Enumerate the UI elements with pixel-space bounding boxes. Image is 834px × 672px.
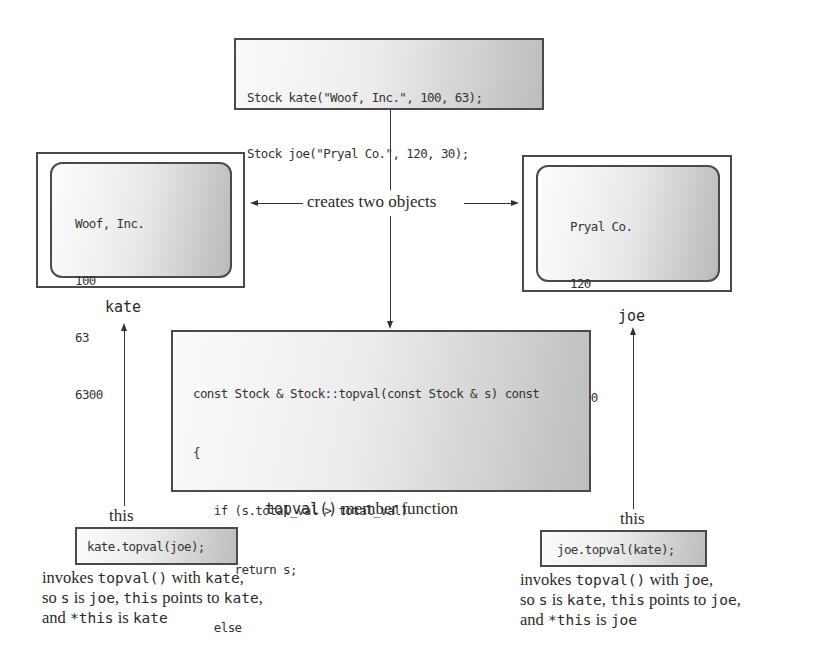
kate-object-frame: Woof, Inc. 100 63 6300 <box>36 152 245 288</box>
joe-field: Pryal Co. <box>570 217 632 236</box>
arrow-left-icon <box>250 200 258 206</box>
arrow-right-icon <box>511 200 519 206</box>
connector-line-left <box>258 203 303 204</box>
joe-field: 120 <box>570 274 632 293</box>
joe-call-caption: invokes topval() with joe, so s is kate,… <box>520 570 741 630</box>
kate-call-code: kate.topval(joe); <box>87 539 205 554</box>
joe-object-box: Pryal Co. 120 30 3600 <box>536 165 720 282</box>
kate-label: kate <box>105 298 141 316</box>
joe-label: joe <box>618 307 645 325</box>
kate-field: 100 <box>75 271 144 290</box>
caption-line-1: invokes topval() with joe, <box>520 570 741 590</box>
connector-line <box>390 216 391 322</box>
kate-call-box: kate.topval(joe); <box>75 527 238 565</box>
caption-text: member function <box>337 499 458 518</box>
member-function-caption: topval() member function <box>265 499 458 519</box>
this-pointer-line-right <box>633 334 634 509</box>
declaration-line: Stock joe("Pryal Co.", 120, 30); <box>247 145 482 164</box>
caption-line-3: and *this is kate <box>42 608 263 628</box>
code-line: { <box>193 443 539 463</box>
this-label-right: this <box>620 509 645 529</box>
connector-line-right <box>464 203 512 204</box>
creates-objects-label: creates two objects <box>307 192 436 212</box>
kate-field: 63 <box>75 328 144 347</box>
this-pointer-line-left <box>124 330 125 506</box>
declaration-box: Stock kate("Woof, Inc.", 100, 63); Stock… <box>234 38 544 110</box>
arrow-up-icon <box>121 323 127 331</box>
arrow-down-icon <box>387 321 393 329</box>
joe-call-code: joe.topval(kate); <box>557 542 675 557</box>
caption-line-2: so s is kate, this points to joe, <box>520 590 741 610</box>
caption-code: topval() <box>265 500 337 518</box>
caption-line-2: so s is joe, this points to kate, <box>42 588 263 608</box>
kate-call-caption: invokes topval() with kate, so s is joe,… <box>42 568 263 628</box>
member-function-box: const Stock & Stock::topval(const Stock … <box>171 330 591 492</box>
this-label-left: this <box>109 506 134 526</box>
kate-field: Woof, Inc. <box>75 214 144 233</box>
kate-object-box: Woof, Inc. 100 63 6300 <box>50 162 232 278</box>
caption-line-1: invokes topval() with kate, <box>42 568 263 588</box>
joe-call-box: joe.topval(kate); <box>540 530 707 567</box>
arrow-up-icon <box>630 327 636 335</box>
code-line: const Stock & Stock::topval(const Stock … <box>193 384 539 404</box>
joe-object-frame: Pryal Co. 120 30 3600 <box>522 155 732 292</box>
declaration-line: Stock kate("Woof, Inc.", 100, 63); <box>247 89 482 108</box>
connector-line <box>390 110 391 190</box>
caption-line-3: and *this is joe <box>520 610 741 630</box>
kate-field: 6300 <box>75 385 144 404</box>
